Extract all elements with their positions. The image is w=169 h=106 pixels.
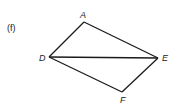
edge-AD — [49, 22, 84, 57]
vertex-label-E: E — [162, 53, 169, 63]
vertex-label-A: A — [79, 10, 86, 20]
vertex-label-D: D — [39, 53, 46, 63]
part-label: (f) — [7, 23, 16, 33]
edge-DE — [49, 57, 158, 58]
geometry-diagram: (f) A D E F — [0, 0, 169, 106]
edge-FE — [122, 58, 158, 92]
edges — [49, 22, 158, 92]
vertex-label-F: F — [120, 95, 126, 105]
edge-AE — [84, 22, 158, 58]
edge-DF — [49, 57, 122, 92]
